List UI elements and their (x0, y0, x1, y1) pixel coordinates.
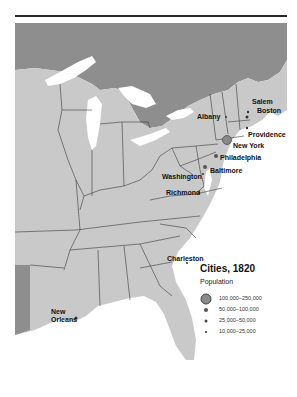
label-richmond: Richmond (166, 189, 200, 196)
map-legend: Cities, 1820 Population 100,000–250,000 … (200, 264, 295, 337)
large-circle-icon (201, 293, 212, 304)
legend-subtitle: Population (200, 278, 295, 285)
legend-item-10k-25k: 10,000–25,000 (206, 326, 295, 337)
marker-salem (247, 111, 249, 113)
label-washington: Washington (162, 173, 202, 180)
marker-washington (202, 173, 204, 175)
label-new-orleans: New Orleans (51, 308, 77, 324)
label-salem: Salem (252, 98, 273, 105)
label-boston: Boston (257, 107, 281, 114)
label-providence: Providence (248, 131, 286, 138)
medium-dot-icon (204, 308, 208, 312)
label-charleston: Charleston (167, 255, 204, 262)
small-dot-icon (205, 319, 208, 322)
marker-albany (225, 116, 227, 118)
legend-item-100k-250k: 100,000–250,000 (206, 293, 295, 304)
marker-philadelphia (214, 154, 218, 158)
legend-item-50k-100k: 50,000–100,000 (206, 304, 295, 315)
label-philadelphia: Philadelphia (220, 154, 261, 161)
map-canvas (0, 0, 297, 397)
legend-title: Cities, 1820 (200, 264, 295, 274)
tiny-dot-icon (205, 331, 207, 333)
marker-providence (246, 127, 248, 129)
marker-baltimore (203, 165, 207, 169)
marker-boston (246, 116, 249, 119)
label-new-york: New York (233, 142, 264, 149)
legend-item-25k-50k: 25,000–50,000 (206, 315, 295, 326)
marker-new-york (223, 136, 232, 145)
marker-charleston (186, 262, 188, 264)
spanish-territory (15, 265, 30, 335)
label-albany: Albany (197, 113, 220, 120)
label-baltimore: Baltimore (210, 167, 242, 174)
